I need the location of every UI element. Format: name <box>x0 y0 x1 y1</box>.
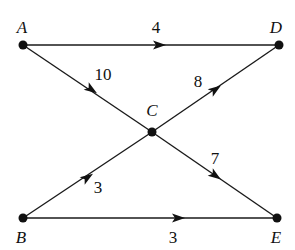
node-label-b: B <box>16 228 27 247</box>
node-e <box>273 214 282 223</box>
edge-weight-label: 4 <box>152 18 161 37</box>
edge-weight-label: 7 <box>211 149 220 168</box>
edge-weight-label: 10 <box>95 65 112 84</box>
node-label-c: C <box>146 101 158 120</box>
node-a <box>19 41 28 50</box>
arrow-icon <box>208 168 224 183</box>
graph-diagram: 4108733ADCBE <box>0 0 295 250</box>
node-label-e: E <box>270 228 282 247</box>
edge-b-c <box>23 132 152 218</box>
graph-svg: 4108733ADCBE <box>0 0 295 250</box>
node-label-d: D <box>269 18 283 37</box>
node-label-a: A <box>16 18 28 37</box>
edge-weight-label: 3 <box>169 228 178 247</box>
node-c <box>148 128 157 137</box>
edge-weight-label: 8 <box>194 72 203 91</box>
edge-weight-label: 3 <box>94 178 103 197</box>
node-d <box>275 41 284 50</box>
node-b <box>19 214 28 223</box>
